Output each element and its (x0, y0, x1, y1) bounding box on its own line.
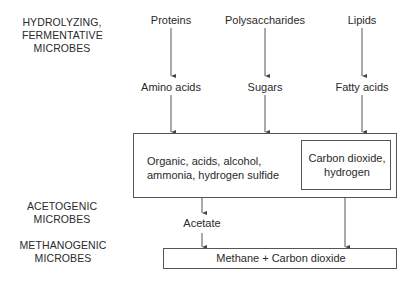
monomer-amino-acids: Amino acids (141, 81, 201, 94)
products-box: Methane + Carbon dioxide (163, 248, 397, 269)
co2-hydrogen-box: Carbon dioxide, hydrogen (301, 140, 391, 190)
intermediates-organics-text: Organic, acids, alcohol, ammonia, hydrog… (147, 154, 279, 182)
products-text: Methane + Carbon dioxide (216, 252, 345, 265)
stage-hydrolyzing-label: HYDROLYZING, FERMENTATIVE MICROBES (22, 16, 102, 55)
monomer-fatty-acids: Fatty acids (335, 81, 388, 94)
substrate-polysaccharides: Polysaccharides (225, 14, 305, 27)
stage-acetogenic-label: ACETOGENIC MICROBES (22, 200, 102, 226)
substrate-lipids: Lipids (348, 14, 377, 27)
substrate-proteins: Proteins (151, 14, 191, 27)
acetate-label: Acetate (183, 217, 220, 230)
monomer-sugars: Sugars (248, 81, 283, 94)
stage-methanogenic-label: METHANOGENIC MICROBES (18, 239, 108, 265)
co2-hydrogen-text: Carbon dioxide, hydrogen (308, 151, 385, 179)
